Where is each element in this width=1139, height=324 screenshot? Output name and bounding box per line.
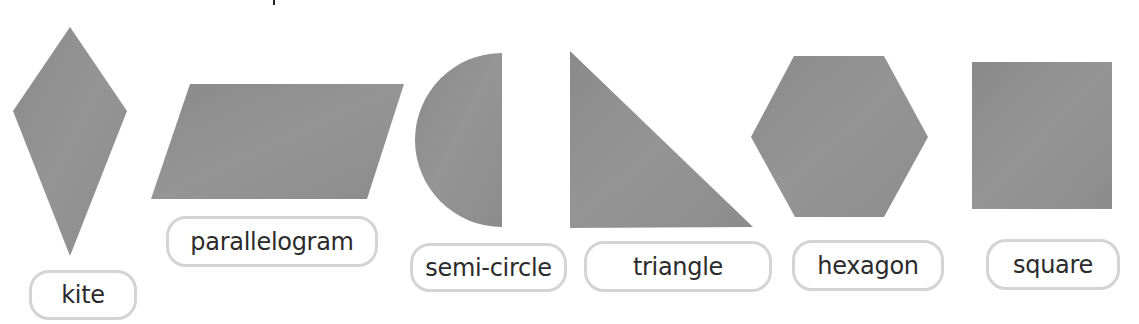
label-square: square [986,239,1120,290]
triangle-shape [570,51,753,228]
parallelogram-shape [151,84,404,199]
kite-shape [13,27,127,256]
shapes-canvas [0,0,1139,324]
shapes-diagram: kite parallelogram semi-circle triangle … [0,0,1139,324]
label-hexagon: hexagon [792,240,944,291]
hexagon-shape [751,56,928,217]
label-parallelogram: parallelogram [166,216,378,267]
label-semi-circle: semi-circle [410,243,567,292]
label-triangle: triangle [584,241,772,292]
label-kite: kite [29,270,137,320]
square-shape [972,62,1112,209]
semi-circle-shape [415,53,502,227]
